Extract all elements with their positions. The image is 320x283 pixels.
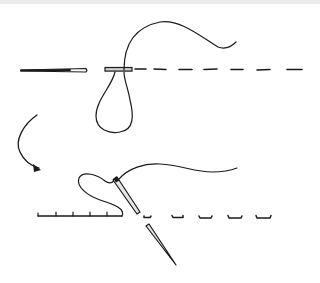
- thread-loop: [96, 72, 132, 132]
- needle-point-icon: [146, 224, 176, 265]
- thread-tail: [124, 22, 236, 70]
- thread-tail-2: [118, 164, 237, 180]
- needle-diagonal-icon: [113, 176, 140, 214]
- step-2-illustration: [38, 164, 271, 265]
- stitch-bar: [105, 68, 132, 72]
- dashed-seam-line: [135, 69, 302, 70]
- curved-arrow-icon: [18, 115, 41, 172]
- sewing-diagram: [0, 0, 320, 283]
- step-1-illustration: [21, 22, 302, 133]
- finished-stitches: [38, 212, 122, 216]
- dashed-seam-line-2: [144, 216, 271, 219]
